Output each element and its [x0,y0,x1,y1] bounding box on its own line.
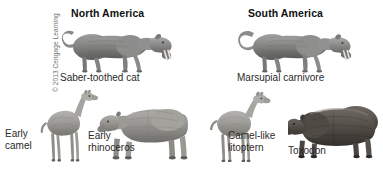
heading-north-america: North America [71,7,144,19]
caption-early-camel: Early camel [5,128,50,151]
caption-marsupial-carnivore: Marsupial carnivore [237,72,367,84]
convergent-evolution-figure: © 2013 Cengage Learning North America So… [0,0,383,175]
caption-camel-like-litoptern: Camel-like litoptern [228,130,292,153]
marsupial-carnivore-illustration [236,21,356,73]
saber-toothed-cat-illustration [58,21,178,73]
caption-toxodon: Toxodon [288,145,348,157]
heading-south-america: South America [248,7,323,19]
caption-saber-toothed-cat: Saber-toothed cat [60,72,180,84]
caption-early-rhinoceros: Early rhinoceros [88,130,146,153]
